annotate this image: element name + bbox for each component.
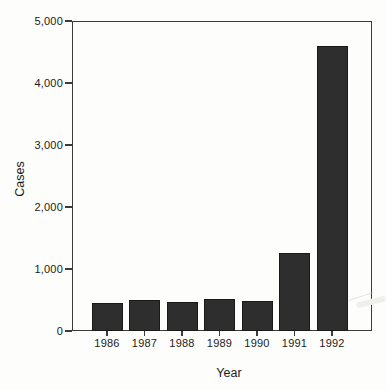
bar-1992: [317, 46, 348, 331]
x-tick-mark: [144, 331, 146, 336]
y-tick-mark: [65, 144, 72, 146]
y-tick-mark: [65, 330, 72, 332]
x-tick-mark: [256, 331, 258, 336]
x-tick-mark: [294, 331, 296, 336]
figure-canvas: 01,0002,0003,0004,0005,00019861987198819…: [0, 0, 387, 390]
y-tick-label: 5,000: [0, 15, 63, 27]
bar-1990: [242, 301, 273, 331]
y-tick-label: 2,000: [0, 201, 63, 213]
x-tick-mark: [181, 331, 183, 336]
y-tick-mark: [65, 20, 72, 22]
x-axis-title: Year: [207, 366, 251, 380]
bar-1989: [204, 299, 235, 331]
bar-1988: [167, 302, 198, 331]
y-tick-mark: [65, 268, 72, 270]
y-tick-label: 4,000: [0, 77, 63, 89]
y-axis-title: Cases: [13, 119, 27, 239]
x-tick-mark: [331, 331, 333, 336]
y-tick-label: 1,000: [0, 263, 63, 275]
y-tick-mark: [65, 82, 72, 84]
x-tick-mark: [219, 331, 221, 336]
x-tick-mark: [106, 331, 108, 336]
bar-1991: [279, 253, 310, 331]
y-tick-mark: [65, 206, 72, 208]
x-tick-label: 1992: [310, 337, 354, 349]
y-tick-label: 3,000: [0, 139, 63, 151]
bar-1987: [129, 300, 160, 331]
y-tick-label: 0: [0, 325, 63, 337]
bar-1986: [92, 303, 123, 331]
